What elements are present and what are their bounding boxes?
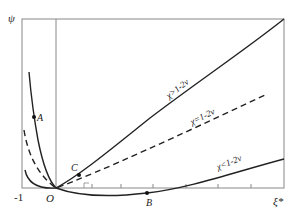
curve-chi-less [25, 159, 284, 195]
point-a [32, 115, 36, 119]
plot-frame [22, 19, 284, 188]
point-c-label: C [71, 162, 78, 173]
chart: ψ ξ* -1 O A C B χ>1-2ν χ=1-2ν χ<1-2ν [0, 0, 299, 219]
x-axis-label: ξ* [273, 195, 284, 208]
point-a-label: A [36, 112, 44, 123]
x-min-label: -1 [14, 191, 23, 203]
curve-eq-label: χ=1-2ν [188, 106, 217, 127]
y-axis-label: ψ [8, 12, 15, 24]
x-ticks [92, 184, 251, 188]
point-c [77, 173, 81, 177]
point-b [145, 191, 149, 195]
origin-label: O [46, 192, 54, 204]
right-angle-mark [84, 183, 89, 188]
point-b-label: B [146, 197, 152, 208]
curve-lt-label: χ<1-2ν [214, 153, 243, 172]
